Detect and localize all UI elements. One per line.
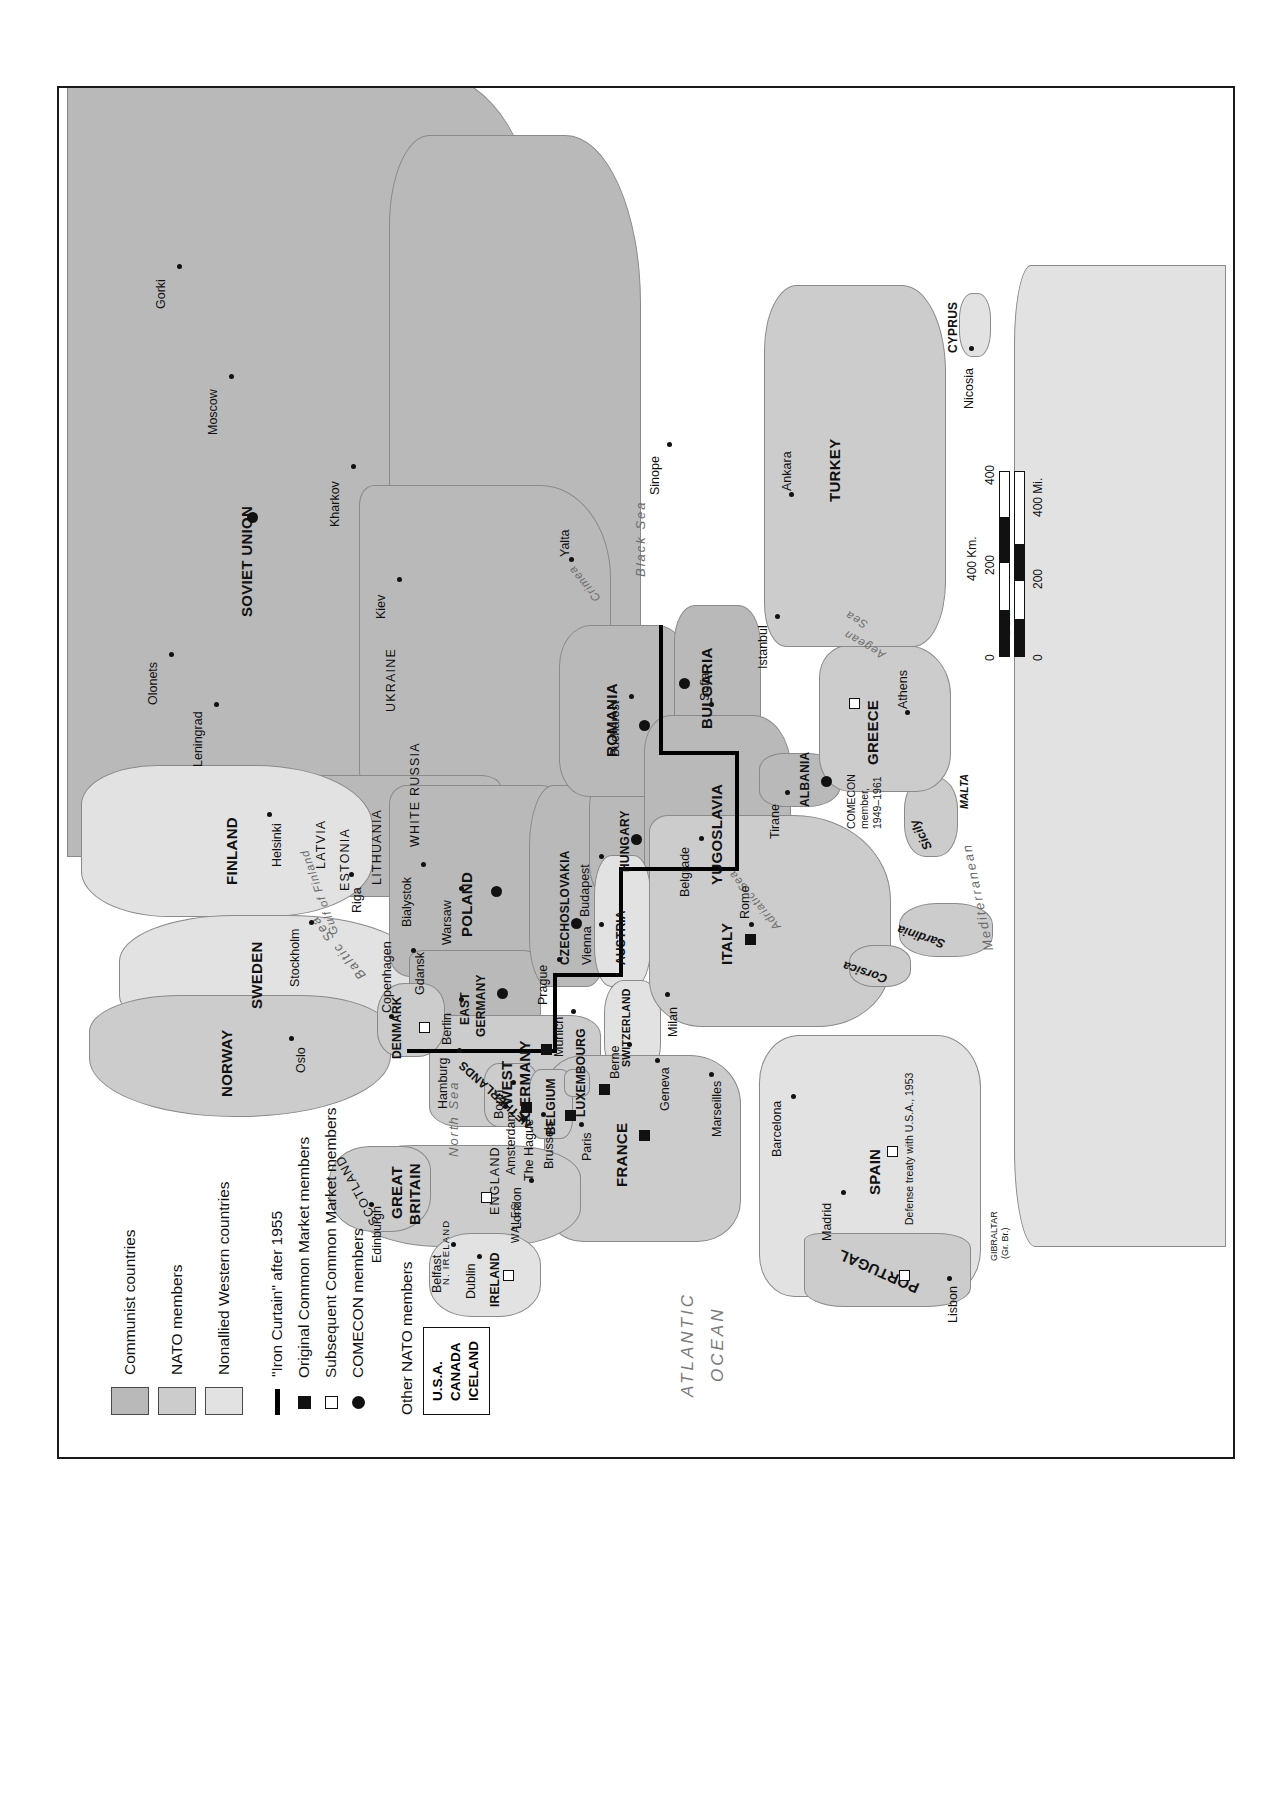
country-label-france: FRANCE [614, 1123, 629, 1187]
city-label-oslo: Oslo [295, 1047, 308, 1073]
city-dot-berne [627, 1042, 632, 1047]
legend-item-communist: Communist countries [111, 1085, 149, 1415]
legend-label-iron-curtain: "Iron Curtain" after 1955 [268, 1211, 286, 1377]
country-label-cyprus: CYPRUS [947, 302, 959, 353]
legend-swatch-nonallied [205, 1387, 243, 1415]
city-dot-brussels [541, 1112, 546, 1117]
annotation-gibraltar-1: GIBRALTAR [989, 1211, 999, 1261]
city-label-lisbon: Lisbon [947, 1286, 960, 1323]
region-label-ukraine: UKRAINE [385, 648, 398, 712]
scale-bar-mi [1014, 471, 1025, 657]
country-label-albania: ALBANIA [799, 752, 811, 807]
legend-item-iron-curtain: "Iron Curtain" after 1955 [268, 1085, 286, 1415]
city-label-kiev: Kiev [375, 595, 388, 619]
city-dot-marseilles [709, 1072, 714, 1077]
scale-tick-mi-200: 200 [1031, 569, 1045, 589]
city-dot-tirane [785, 790, 790, 795]
city-dot-geneva [655, 1058, 660, 1063]
city-label-vienna: Vienna [581, 926, 594, 965]
legend-label-comecon: COMECON members [349, 1228, 367, 1378]
city-dot-oslo [289, 1036, 294, 1041]
city-dot-amsterdam [503, 1104, 508, 1109]
iron-curtain-segment-mid [553, 973, 623, 977]
region-label-white-russia: WHITE RUSSIA [409, 742, 422, 847]
ocean-label-atlantic-2: OCEAN [709, 1307, 726, 1382]
legend-label-original-common-market: Original Common Market members [295, 1137, 313, 1378]
city-label-milan: Milan [667, 1007, 680, 1037]
city-dot-budapest [599, 854, 604, 859]
landmass-cyprus [959, 293, 991, 357]
island-label-malta: MALTA [959, 774, 970, 809]
country-label-sweden: SWEDEN [249, 941, 264, 1009]
scale-bar: 0 200 400 400 Km. 0 200 400 Mi. [999, 471, 1025, 657]
legend-item-nonallied: Nonallied Western countries [205, 1085, 243, 1415]
map-legend: Communist countries NATO members Nonalli… [111, 1085, 490, 1415]
common-market-subsequent-portugal [899, 1270, 910, 1281]
city-label-prague: Prague [537, 965, 550, 1005]
comecon-marker-albania [821, 776, 832, 787]
city-dot-sofia [709, 702, 714, 707]
city-dot-vienna [599, 922, 604, 927]
country-label-finland: FINLAND [224, 817, 239, 885]
comecon-marker-poland [491, 886, 502, 897]
city-label-warsaw: Warsaw [441, 900, 454, 945]
city-label-gdansk: Gdansk [414, 952, 427, 995]
country-label-east-germany-2: GERMANY [475, 974, 487, 1037]
city-dot-berlin [459, 997, 464, 1002]
landmass-north-africa [1014, 265, 1226, 1247]
country-label-switzerland: SWITZERLAND [621, 988, 632, 1067]
common-market-original-france [639, 1130, 650, 1141]
city-label-marseilles: Marseilles [711, 1081, 724, 1137]
city-dot-rome [749, 922, 754, 927]
city-dot-warsaw [459, 886, 464, 891]
iron-curtain-segment-greece [659, 625, 663, 755]
legend-swatch-nato [158, 1387, 196, 1415]
scale-bar-km [999, 471, 1010, 657]
country-label-austria: AUSTRIA [615, 910, 627, 965]
country-label-ireland: IRELAND [489, 1252, 501, 1307]
legend-label-nato: NATO members [168, 1264, 186, 1375]
city-dot-london [529, 1178, 534, 1183]
annotation-albania-comecon-2: member, [858, 788, 870, 829]
city-label-berne: Berne [609, 1046, 622, 1079]
city-label-brussels: Brussels [543, 1121, 556, 1169]
rotated-map-sheet: ATLANTIC OCEAN North Sea Baltic Sea Blac… [59, 88, 1233, 1457]
city-dot-bialystok [421, 862, 426, 867]
scale-unit-km: 400 Km. [965, 536, 979, 581]
city-dot-copenhagen [389, 1014, 394, 1019]
city-label-ankara: Ankara [781, 451, 794, 491]
landmass-greece [819, 645, 951, 792]
map-page: ATLANTIC OCEAN North Sea Baltic Sea Blac… [0, 0, 1288, 1804]
legend-label-subsequent-common-market: Subsequent Common Market members [322, 1107, 340, 1378]
annotation-albania-comecon-3: 1949–1961 [871, 776, 883, 829]
city-dot-milan [665, 992, 670, 997]
city-dot-moscow [229, 374, 234, 379]
country-label-luxembourg: LUXEMBOURG [575, 1028, 587, 1117]
legend-item-original-common-market: Original Common Market members [295, 1085, 313, 1415]
scale-seg-mi-1 [1015, 619, 1024, 656]
legend-label-communist: Communist countries [121, 1229, 139, 1375]
common-market-original-luxembourg [599, 1084, 610, 1095]
common-market-original-belgium [565, 1110, 576, 1121]
city-label-nicosia: Nicosia [963, 368, 976, 409]
region-label-estonia: ESTONIA [339, 828, 352, 891]
legend-item-comecon: COMECON members [349, 1085, 367, 1415]
city-label-the-hague: The Hague [523, 1119, 536, 1181]
city-dot-belgrade [699, 836, 704, 841]
common-market-subsequent-denmark [419, 1022, 430, 1033]
annotation-gibraltar-2: (Gr. Br.) [1000, 1228, 1010, 1260]
city-dot-madrid [841, 1190, 846, 1195]
city-label-bialystok: Bialystok [401, 877, 414, 927]
scale-seg-mi-2 [1015, 544, 1024, 581]
city-label-stockholm: Stockholm [289, 929, 302, 987]
legend-spacer-2 [376, 1085, 392, 1415]
ocean-label-atlantic-1: ATLANTIC [679, 1292, 696, 1397]
legend-line-iron-curtain [275, 1389, 280, 1415]
sea-label-black-sea: Black Sea [634, 500, 647, 577]
city-label-helsinki: Helsinki [271, 823, 284, 867]
comecon-marker-hungary [631, 834, 642, 845]
city-label-athens: Athens [897, 670, 910, 709]
city-dot-kharkov [351, 464, 356, 469]
legend-swatch-communist [111, 1387, 149, 1415]
country-label-yugoslavia: YUGOSLAVIA [709, 784, 724, 885]
